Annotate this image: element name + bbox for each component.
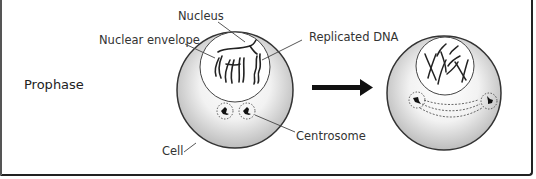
label-nucleus: Nucleus — [178, 9, 224, 23]
right-arrow-icon — [312, 79, 373, 96]
cell-late-prophase — [387, 36, 501, 150]
label-nuclear-envelope: Nuclear envelope — [99, 33, 200, 47]
phase-label: Prophase — [24, 77, 84, 92]
mitosis-diagram: Prophase — [0, 0, 536, 179]
label-replicated-dna: Replicated DNA — [309, 30, 399, 44]
label-cell: Cell — [162, 144, 184, 158]
cell-early-prophase — [177, 32, 293, 148]
label-centrosome: Centrosome — [296, 129, 366, 143]
